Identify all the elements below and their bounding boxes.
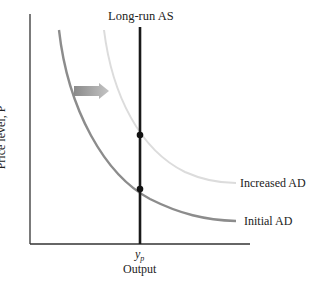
initial-ad-curve: [59, 30, 236, 221]
x-tick-label: yp: [135, 247, 144, 263]
diagram-title: Long-run AS: [108, 9, 174, 24]
ad-as-diagram: [0, 0, 314, 284]
equilibrium-point-increased: [137, 132, 144, 139]
x-axis-label: Output: [123, 262, 156, 277]
initial-ad-label: Initial AD: [244, 214, 292, 229]
shift-right-arrow-icon: [74, 83, 109, 99]
equilibrium-point-initial: [137, 186, 144, 193]
increased-ad-label: Increased AD: [240, 176, 306, 191]
y-axis-label: Price level, P: [0, 106, 9, 170]
y-axis-label-text: Price level, P: [0, 106, 8, 170]
increased-ad-curve: [104, 30, 236, 183]
